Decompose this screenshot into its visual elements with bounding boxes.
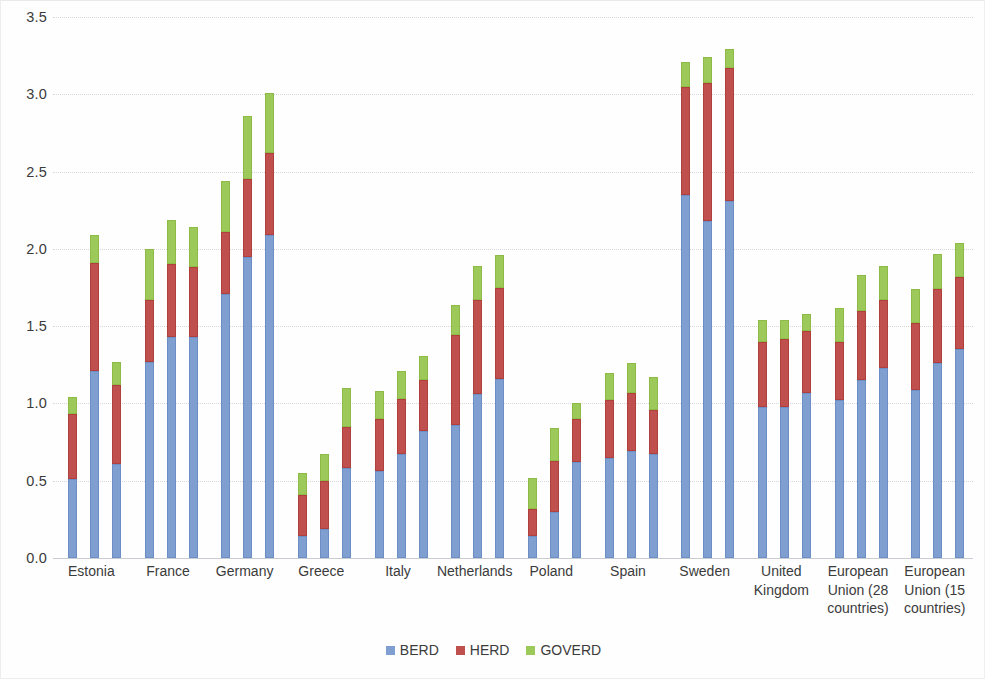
bar-segment-herd[interactable] [375, 419, 384, 472]
bar-segment-berd[interactable] [911, 390, 920, 558]
bar-segment-herd[interactable] [703, 83, 712, 221]
bar-segment-herd[interactable] [495, 288, 504, 379]
bar-segment-goverd[interactable] [473, 266, 482, 300]
bar-segment-berd[interactable] [857, 380, 866, 558]
bar-segment-herd[interactable] [933, 289, 942, 363]
bar-segment-herd[interactable] [911, 323, 920, 389]
bar-segment-goverd[interactable] [933, 254, 942, 290]
bar-segment-goverd[interactable] [780, 320, 789, 339]
bar-segment-herd[interactable] [550, 461, 559, 512]
bar-segment-berd[interactable] [473, 394, 482, 558]
bar-segment-berd[interactable] [955, 349, 964, 558]
bar-segment-goverd[interactable] [375, 391, 384, 419]
bar-segment-herd[interactable] [835, 342, 844, 401]
stacked-bar[interactable] [955, 243, 964, 558]
bar-segment-herd[interactable] [780, 339, 789, 407]
stacked-bar[interactable] [221, 181, 230, 558]
bar-segment-berd[interactable] [681, 195, 690, 558]
stacked-bar[interactable] [879, 266, 888, 558]
stacked-bar[interactable] [933, 254, 942, 558]
bar-segment-berd[interactable] [725, 201, 734, 558]
stacked-bar[interactable] [725, 49, 734, 558]
stacked-bar[interactable] [758, 320, 767, 558]
bar-segment-goverd[interactable] [167, 220, 176, 265]
stacked-bar[interactable] [473, 266, 482, 558]
bar-segment-berd[interactable] [320, 529, 329, 558]
bar-segment-goverd[interactable] [145, 249, 154, 300]
bar-segment-herd[interactable] [955, 277, 964, 350]
bar-segment-berd[interactable] [397, 454, 406, 558]
stacked-bar[interactable] [298, 473, 307, 558]
bar-segment-berd[interactable] [189, 337, 198, 558]
bar-segment-goverd[interactable] [265, 93, 274, 153]
bar-segment-goverd[interactable] [703, 57, 712, 83]
bar-segment-berd[interactable] [649, 454, 658, 558]
bar-segment-berd[interactable] [528, 536, 537, 558]
bar-segment-goverd[interactable] [495, 255, 504, 287]
stacked-bar[interactable] [419, 356, 428, 558]
bar-segment-berd[interactable] [342, 468, 351, 558]
bar-segment-goverd[interactable] [572, 403, 581, 418]
bar-segment-berd[interactable] [835, 400, 844, 558]
bar-segment-herd[interactable] [265, 153, 274, 235]
stacked-bar[interactable] [265, 93, 274, 558]
stacked-bar[interactable] [112, 362, 121, 558]
bar-segment-herd[interactable] [397, 399, 406, 455]
bar-segment-herd[interactable] [725, 68, 734, 201]
bar-segment-herd[interactable] [879, 300, 888, 368]
bar-segment-herd[interactable] [572, 419, 581, 462]
stacked-bar[interactable] [550, 428, 559, 558]
bar-segment-berd[interactable] [703, 221, 712, 558]
bar-segment-berd[interactable] [221, 294, 230, 558]
legend-item-berd[interactable]: BERD [386, 642, 439, 658]
stacked-bar[interactable] [528, 478, 537, 558]
bar-segment-goverd[interactable] [397, 371, 406, 399]
bar-segment-berd[interactable] [758, 407, 767, 558]
bar-segment-herd[interactable] [167, 264, 176, 337]
bar-segment-goverd[interactable] [758, 320, 767, 342]
bar-segment-berd[interactable] [90, 371, 99, 558]
stacked-bar[interactable] [68, 397, 77, 558]
bar-segment-berd[interactable] [265, 235, 274, 558]
bar-segment-berd[interactable] [419, 431, 428, 558]
stacked-bar[interactable] [835, 308, 844, 558]
stacked-bar[interactable] [681, 62, 690, 558]
bar-segment-berd[interactable] [112, 464, 121, 558]
bar-segment-goverd[interactable] [627, 363, 636, 392]
stacked-bar[interactable] [802, 314, 811, 558]
bar-segment-herd[interactable] [528, 509, 537, 537]
stacked-bar[interactable] [703, 57, 712, 558]
bar-segment-goverd[interactable] [342, 388, 351, 427]
stacked-bar[interactable] [780, 320, 789, 558]
stacked-bar[interactable] [495, 255, 504, 558]
bar-segment-goverd[interactable] [911, 289, 920, 323]
bar-segment-goverd[interactable] [802, 314, 811, 331]
stacked-bar[interactable] [243, 116, 252, 558]
stacked-bar[interactable] [320, 454, 329, 558]
bar-segment-goverd[interactable] [90, 235, 99, 263]
stacked-bar[interactable] [451, 305, 460, 558]
bar-segment-herd[interactable] [145, 300, 154, 362]
bar-segment-herd[interactable] [189, 267, 198, 337]
bar-segment-herd[interactable] [473, 300, 482, 394]
bar-segment-goverd[interactable] [550, 428, 559, 460]
stacked-bar[interactable] [911, 289, 920, 558]
bar-segment-berd[interactable] [451, 425, 460, 558]
bar-segment-goverd[interactable] [649, 377, 658, 409]
stacked-bar[interactable] [375, 391, 384, 558]
bar-segment-herd[interactable] [243, 179, 252, 256]
stacked-bar[interactable] [342, 388, 351, 558]
bar-segment-herd[interactable] [68, 414, 77, 479]
bar-segment-goverd[interactable] [879, 266, 888, 300]
bar-segment-goverd[interactable] [681, 62, 690, 87]
bar-segment-berd[interactable] [627, 451, 636, 558]
bar-segment-berd[interactable] [375, 471, 384, 558]
bar-segment-goverd[interactable] [528, 478, 537, 509]
stacked-bar[interactable] [145, 249, 154, 558]
bar-segment-herd[interactable] [802, 331, 811, 393]
bar-segment-goverd[interactable] [221, 181, 230, 232]
stacked-bar[interactable] [167, 220, 176, 558]
bar-segment-herd[interactable] [627, 393, 636, 452]
bar-segment-herd[interactable] [112, 385, 121, 464]
bar-segment-herd[interactable] [419, 380, 428, 431]
